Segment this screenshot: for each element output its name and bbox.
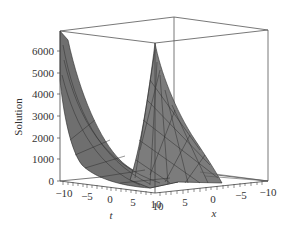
t-tick-neg10: −10 [55, 187, 73, 199]
t-tick-neg5: −5 [81, 190, 93, 202]
z-tick-4000: 4000 [32, 88, 55, 100]
x-tick-5: 5 [182, 196, 188, 208]
surface-plot: 0 1000 2000 3000 4000 5000 6000 Solution [0, 0, 293, 229]
surface [60, 31, 268, 188]
x-tick-10: 10 [153, 200, 165, 212]
z-tick-1000: 1000 [32, 153, 55, 165]
z-tick-3000: 3000 [32, 110, 55, 122]
x-tick-neg5: −5 [235, 189, 247, 201]
t-tick-0: 0 [107, 193, 113, 205]
z-tick-5000: 5000 [32, 67, 55, 79]
z-tick-6000: 6000 [32, 45, 55, 57]
z-tick-0: 0 [49, 175, 55, 187]
x-tick-neg10: −10 [259, 186, 277, 198]
z-tick-2000: 2000 [32, 132, 55, 144]
z-axis-title: Solution [12, 98, 24, 136]
t-tick-5: 5 [130, 196, 136, 208]
z-axis: 0 1000 2000 3000 4000 5000 6000 Solution [12, 31, 60, 187]
x-tick-0: 0 [210, 193, 216, 205]
x-axis-title: x [211, 207, 217, 219]
t-axis-title: t [109, 209, 113, 221]
